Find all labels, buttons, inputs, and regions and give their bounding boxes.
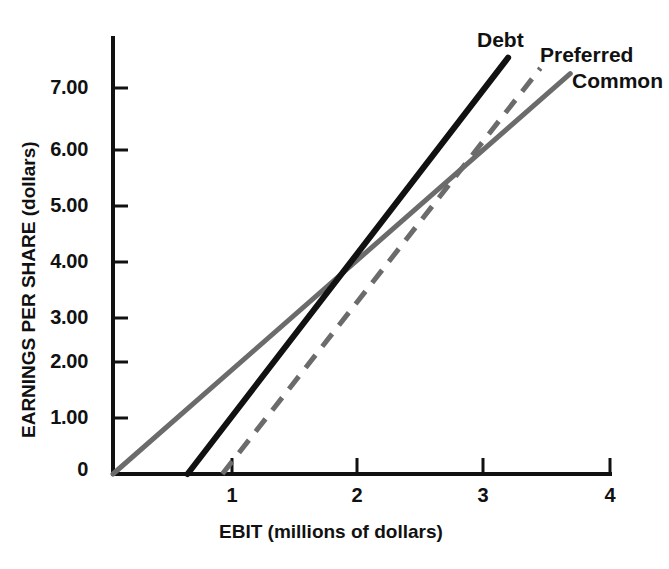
x-tick-label-1: 1 (212, 484, 252, 507)
y-axis-title: EARNINGS PER SHARE (dollars) (18, 141, 40, 438)
y-axis-ticks (113, 88, 128, 418)
series-label-common: Common (572, 69, 663, 93)
y-tick-label-0: 0 (26, 458, 88, 481)
x-axis-ticks (232, 458, 610, 474)
series-line-preferred (222, 68, 540, 474)
x-tick-label-4: 4 (590, 484, 630, 507)
series-label-debt: Debt (477, 28, 524, 52)
chart-plot-area (0, 0, 669, 569)
x-tick-label-3: 3 (463, 484, 503, 507)
y-tick-label-7: 7.00 (26, 76, 88, 99)
series-label-preferred: Preferred (540, 43, 633, 67)
ebit-eps-chart: 7.00 6.00 5.00 4.00 3.00 2.00 1.00 0 1 2… (0, 0, 669, 569)
x-axis-title: EBIT (millions of dollars) (219, 521, 443, 543)
x-tick-label-2: 2 (337, 484, 377, 507)
series-line-debt (188, 58, 509, 474)
